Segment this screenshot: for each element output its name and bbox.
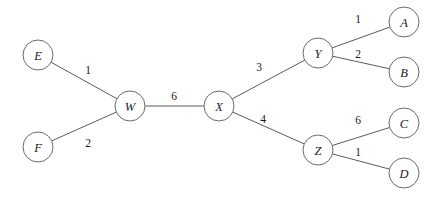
node-label-b: B xyxy=(400,66,408,80)
graph-node-a: A xyxy=(389,7,419,37)
graph-edge-x-y xyxy=(232,60,305,99)
graph-node-c: C xyxy=(389,108,419,138)
edge-weight-f-w: 2 xyxy=(85,137,91,149)
node-label-d: D xyxy=(398,167,408,181)
graph-edge-z-d xyxy=(332,154,389,169)
node-label-f: F xyxy=(33,141,42,155)
node-label-z: Z xyxy=(315,144,323,158)
edge-weight-x-z: 4 xyxy=(260,113,266,125)
node-label-w: W xyxy=(125,100,137,114)
edge-weight-x-y: 3 xyxy=(256,61,262,73)
graph-node-e: E xyxy=(23,40,53,70)
edge-weight-w-x: 6 xyxy=(171,90,177,102)
graph-edge-e-w xyxy=(51,62,117,98)
edge-weight-y-b: 2 xyxy=(355,48,361,60)
node-label-c: C xyxy=(400,117,409,131)
graph-edge-x-z xyxy=(233,112,305,144)
graph-edge-y-b xyxy=(333,56,390,69)
edge-weight-z-d: 1 xyxy=(355,146,361,158)
node-label-x: X xyxy=(214,100,224,114)
graph-canvas: 126341261 EFWXYZABCD xyxy=(0,0,443,202)
edge-weight-z-c: 6 xyxy=(355,114,361,126)
graph-node-z: Z xyxy=(303,135,333,165)
graph-node-y: Y xyxy=(303,38,333,68)
graph-diagram: 126341261 EFWXYZABCD xyxy=(0,0,443,202)
graph-edge-z-c xyxy=(332,127,389,145)
node-label-a: A xyxy=(399,16,408,30)
graph-node-b: B xyxy=(389,57,419,87)
graph-node-d: D xyxy=(389,158,419,188)
graph-node-f: F xyxy=(23,132,53,162)
node-label-e: E xyxy=(33,49,42,63)
edge-weight-e-w: 1 xyxy=(85,64,91,76)
graph-edge-f-w xyxy=(52,112,117,141)
graph-node-x: X xyxy=(204,91,234,121)
graph-edge-y-a xyxy=(332,27,390,48)
graph-node-w: W xyxy=(115,91,145,121)
edge-weight-y-a: 1 xyxy=(355,13,361,25)
